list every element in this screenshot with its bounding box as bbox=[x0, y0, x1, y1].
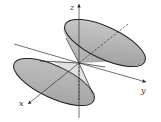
z-axis-label: z bbox=[69, 3, 75, 12]
double-cone-diagram: z x y bbox=[0, 0, 161, 122]
y-axis-label: y bbox=[140, 86, 146, 95]
x-axis-label: x bbox=[19, 99, 24, 108]
